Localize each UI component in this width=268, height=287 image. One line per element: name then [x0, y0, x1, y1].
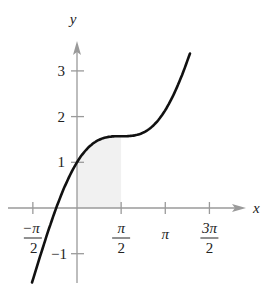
svg-text:3: 3 — [58, 63, 66, 79]
tick-labels: yx−1123−π2π2π3π2 — [22, 11, 260, 262]
svg-text:π: π — [117, 220, 125, 236]
svg-text:π: π — [162, 226, 170, 242]
svg-text:−1: −1 — [51, 246, 67, 262]
function-graph: yx−1123−π2π2π3π2 — [0, 0, 268, 287]
svg-text:2: 2 — [206, 240, 214, 256]
shaded-region — [77, 136, 121, 208]
svg-text:x: x — [252, 200, 260, 216]
svg-text:1: 1 — [58, 154, 66, 170]
svg-text:2: 2 — [117, 240, 125, 256]
svg-text:−π: −π — [22, 220, 40, 236]
svg-text:y: y — [68, 11, 77, 27]
svg-text:2: 2 — [30, 240, 38, 256]
svg-text:2: 2 — [58, 109, 66, 125]
svg-text:3π: 3π — [201, 220, 218, 236]
